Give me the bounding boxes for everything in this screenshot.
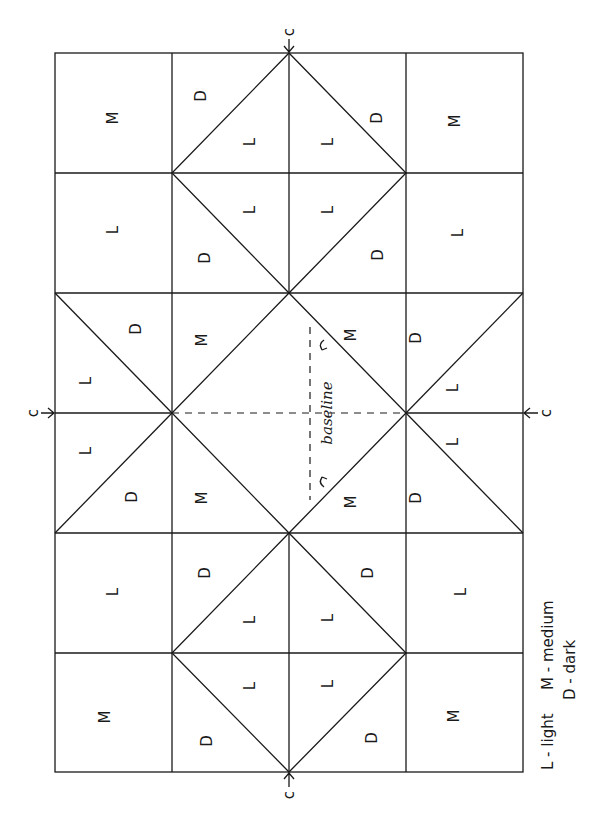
patch-r6c3-top: L xyxy=(319,679,337,688)
patch-r5c2-top: D xyxy=(196,567,214,579)
patch-r2c1: L xyxy=(104,225,122,234)
patch-r2c2-top: L xyxy=(241,205,259,214)
left-x-2 xyxy=(55,413,172,533)
center-marker-left: c xyxy=(24,408,54,418)
patch-r1c3-top: D xyxy=(368,112,386,124)
patch-m-right-upper-L: L xyxy=(444,383,462,392)
left-x-1 xyxy=(55,293,172,413)
patch-m-c3-lower-M: M xyxy=(342,496,360,509)
baseline-label: baseline xyxy=(318,381,336,444)
center-marker-top: c xyxy=(280,28,298,52)
patch-m-right-upper-D: D xyxy=(407,332,425,344)
baseline-arrow-end xyxy=(320,340,327,350)
patch-r5c4: L xyxy=(452,587,470,596)
svg-text:c: c xyxy=(280,28,298,36)
patch-r1c2-top: D xyxy=(192,90,210,102)
legend-light: L - light xyxy=(539,713,557,770)
right-x-1 xyxy=(406,293,523,413)
patch-r2c4: L xyxy=(449,228,467,237)
patch-r6c1: M xyxy=(96,711,114,724)
patch-r1c2-bot: L xyxy=(241,137,259,146)
patch-r2c3-bot: D xyxy=(369,249,387,261)
svg-text:c: c xyxy=(280,791,298,799)
patch-m-c2-upper-M: M xyxy=(193,334,211,347)
center-marker-right: c xyxy=(524,408,555,418)
patch-m-right-lower-D: D xyxy=(407,492,425,504)
patch-m-left-lower-L: L xyxy=(77,446,95,455)
legend-medium: M - medium xyxy=(539,600,557,690)
right-x-2 xyxy=(406,413,523,533)
svg-text:c: c xyxy=(537,409,555,417)
patch-m-c2-lower-M: M xyxy=(193,492,211,505)
patch-m-right-lower-L: L xyxy=(444,437,462,446)
patch-r6c2-bot: D xyxy=(198,735,216,747)
patch-r5c3-bot: L xyxy=(319,613,337,622)
patch-m-left-upper-L: L xyxy=(77,376,95,385)
patch-r6c4: M xyxy=(445,710,463,723)
baseline-arrow-start xyxy=(320,477,327,487)
patch-r5c2-bot: L xyxy=(241,615,259,624)
patch-r1c4: M xyxy=(446,115,464,128)
patch-m-left-lower-D: D xyxy=(123,491,141,503)
patch-r6c2-top: L xyxy=(241,681,259,690)
patch-r2c3-top: L xyxy=(319,205,337,214)
patch-m-c3-upper-M: M xyxy=(342,329,360,342)
patch-r2c2-bot: D xyxy=(196,252,214,264)
patch-r6c3-bot: D xyxy=(363,732,381,744)
quilt-diagram: baseline c c c c M D L D L M L L D L D L… xyxy=(0,0,597,829)
center-marker-bottom: c xyxy=(280,773,298,799)
patch-r1c1: M xyxy=(104,112,122,125)
patch-r5c1: L xyxy=(104,587,122,596)
legend: L - light M - medium D - dark xyxy=(539,600,579,770)
svg-text:c: c xyxy=(24,409,42,417)
legend-dark: D - dark xyxy=(561,640,579,700)
patch-r5c3-top: D xyxy=(359,567,377,579)
patch-m-left-upper-D: D xyxy=(127,323,145,335)
patch-r1c3-bot: L xyxy=(319,137,337,146)
